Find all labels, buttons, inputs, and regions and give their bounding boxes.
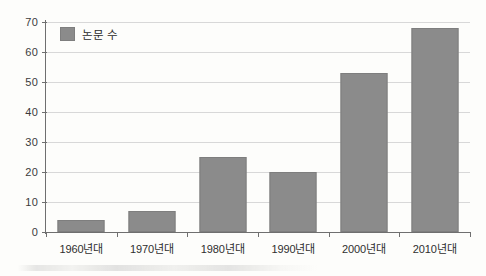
- x-axis-label-layer: 1960년대1970년대1980년대1990년대2000년대2010년대: [46, 240, 470, 258]
- legend-label: 논문 수: [82, 26, 118, 42]
- bar-slot: [187, 22, 258, 232]
- y-axis-label-50: 50: [25, 76, 38, 88]
- x-axis-tick-5: [399, 232, 400, 237]
- y-axis-label-10: 10: [25, 196, 38, 208]
- bar-1990년대: [270, 172, 317, 232]
- bar-1970년대: [128, 211, 175, 232]
- bar-chart-figure: 706050403020100 1960년대1970년대1980년대1990년대…: [0, 0, 486, 276]
- bar-slot: [258, 22, 329, 232]
- x-axis-label-2000년대: 2000년대: [342, 240, 386, 256]
- legend-swatch-icon: [60, 27, 75, 41]
- y-axis-label-40: 40: [25, 106, 38, 118]
- bar-2010년대: [411, 28, 458, 232]
- bar-slot: [329, 22, 400, 232]
- x-axis-tick-4: [329, 232, 330, 237]
- bar-slot: [117, 22, 188, 232]
- y-axis-label-30: 30: [25, 136, 38, 148]
- x-axis-tick-3: [258, 232, 259, 237]
- y-axis-label-0: 0: [32, 226, 38, 238]
- bar-series-layer: [46, 22, 470, 232]
- x-axis-label-1960년대: 1960년대: [59, 240, 103, 256]
- bar-1980년대: [199, 157, 246, 232]
- bar-1960년대: [58, 220, 105, 232]
- x-axis-tick-1: [117, 232, 118, 237]
- x-axis-tick-2: [187, 232, 188, 237]
- y-axis-label-20: 20: [25, 166, 38, 178]
- x-axis-label-1980년대: 1980년대: [201, 240, 245, 256]
- x-axis-label-2010년대: 2010년대: [413, 240, 457, 256]
- bar-2000년대: [340, 73, 387, 232]
- scan-artifact: [18, 265, 318, 271]
- x-axis-tick-0: [46, 232, 47, 237]
- x-axis-tick-6: [470, 232, 471, 237]
- y-axis-label-60: 60: [25, 46, 38, 58]
- bar-slot: [399, 22, 470, 232]
- bar-slot: [46, 22, 117, 232]
- y-axis-line: [45, 20, 46, 234]
- x-axis-label-1970년대: 1970년대: [130, 240, 174, 256]
- x-axis-label-1990년대: 1990년대: [271, 240, 315, 256]
- plot-area: 706050403020100: [46, 22, 470, 232]
- chart-legend: 논문 수: [60, 26, 118, 42]
- y-axis-label-70: 70: [25, 16, 38, 28]
